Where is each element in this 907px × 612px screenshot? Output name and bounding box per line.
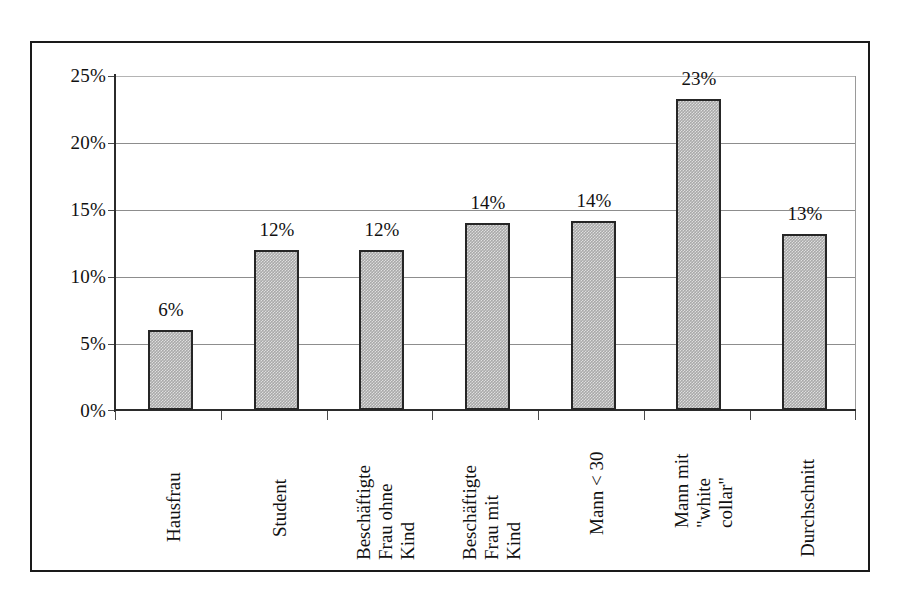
y-tick-label-15: 15% xyxy=(36,200,106,219)
chart-figure: 25% 20% 15% 10% 5% 0% 6% 12% 12% 14% 14%… xyxy=(0,0,907,612)
x-category-line: Durchschnitt xyxy=(797,459,819,557)
bar-beschaeftigte-frau-ohne-kind[interactable] xyxy=(359,250,404,410)
x-category-label-durchschnitt: Durchschnitt xyxy=(797,459,819,557)
x-category-label-mann-mit-white-collar: Mann mit "white collar" xyxy=(671,454,737,528)
x-tick-mark-0 xyxy=(115,411,116,420)
gridline-20 xyxy=(115,143,856,144)
bar-beschaeftigte-frau-mit-kind[interactable] xyxy=(465,223,510,410)
y-tick-label-20: 20% xyxy=(36,133,106,152)
x-tick-mark-4 xyxy=(538,411,539,420)
x-category-line: "white xyxy=(693,454,715,528)
bar-value-label-mann-unter-30: 14% xyxy=(561,191,627,210)
y-axis-line xyxy=(114,74,116,412)
x-category-label-beschaeftigte-frau-mit-kind: Beschäftigte Frau mit Kind xyxy=(459,465,525,560)
x-category-line: Hausfrau xyxy=(163,472,185,542)
x-category-line: Frau ohne xyxy=(375,465,397,560)
x-category-line: Beschäftigte xyxy=(459,465,481,560)
y-tick-label-25: 25% xyxy=(36,66,106,85)
x-tick-mark-2 xyxy=(327,411,328,420)
bar-value-label-hausfrau: 6% xyxy=(138,300,204,319)
x-tick-mark-6 xyxy=(750,411,751,420)
bar-value-label-beschaeftigte-frau-mit-kind: 14% xyxy=(455,193,521,212)
x-category-line: Kind xyxy=(503,465,525,560)
x-category-label-student: Student xyxy=(269,479,291,537)
plot-area-right-edge xyxy=(855,76,856,411)
bar-hausfrau[interactable] xyxy=(148,330,193,410)
x-category-line: Mann < 30 xyxy=(586,451,608,535)
x-category-line: Beschäftigte xyxy=(353,465,375,560)
bar-value-label-student: 12% xyxy=(244,220,310,239)
x-category-line: Kind xyxy=(397,465,419,560)
bar-mann-mit-white-collar[interactable] xyxy=(676,99,721,410)
x-tick-mark-5 xyxy=(644,411,645,420)
x-category-line: Student xyxy=(269,479,291,537)
x-category-line: collar" xyxy=(715,454,737,528)
bar-student[interactable] xyxy=(254,250,299,410)
x-tick-mark-3 xyxy=(432,411,433,420)
x-tick-mark-1 xyxy=(221,411,222,420)
x-category-label-beschaeftigte-frau-ohne-kind: Beschäftigte Frau ohne Kind xyxy=(353,465,419,560)
bar-value-label-durchschnitt: 13% xyxy=(772,204,838,223)
bar-durchschnitt[interactable] xyxy=(782,234,827,410)
gridline-25 xyxy=(115,76,856,77)
bar-mann-unter-30[interactable] xyxy=(571,221,616,410)
bar-value-label-beschaeftigte-frau-ohne-kind: 12% xyxy=(349,220,415,239)
x-category-line: Mann mit xyxy=(671,454,693,528)
y-tick-label-0: 0% xyxy=(36,401,106,420)
x-category-label-mann-unter-30: Mann < 30 xyxy=(586,451,608,535)
x-tick-mark-7 xyxy=(855,411,856,420)
y-tick-label-10: 10% xyxy=(36,267,106,286)
y-tick-label-5: 5% xyxy=(36,334,106,353)
x-category-label-hausfrau: Hausfrau xyxy=(163,472,185,542)
bar-value-label-mann-mit-white-collar: 23% xyxy=(666,69,732,88)
x-category-line: Frau mit xyxy=(481,465,503,560)
